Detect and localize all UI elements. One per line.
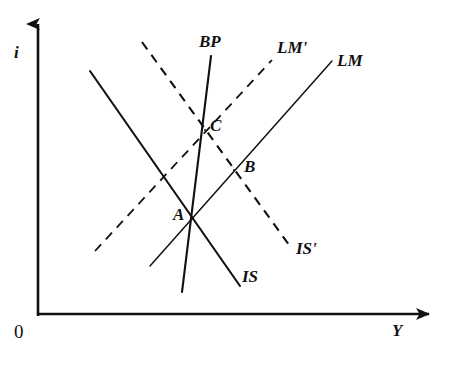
equilibrium-points-group: [191, 129, 235, 220]
curve-label-bp: BP: [199, 33, 221, 50]
curve-is: [90, 71, 240, 286]
point-label-c: C: [210, 117, 221, 134]
origin-label: 0: [14, 322, 24, 341]
point-a-marker: [191, 218, 193, 220]
curve-label-lm: LM: [337, 52, 363, 69]
curve-label-is: IS: [242, 268, 258, 285]
curve-label-is-prime: IS': [296, 240, 317, 257]
point-label-b: B: [244, 158, 255, 175]
is-lm-bp-figure: i Y 0 BP LM' LM IS IS' A B C: [0, 0, 455, 368]
diagram-canvas: [0, 0, 455, 368]
point-label-a: A: [173, 206, 184, 223]
curve-bp: [182, 56, 211, 292]
curve-label-lm-prime: LM': [277, 39, 307, 56]
point-b-marker: [233, 169, 235, 171]
x-axis-label: Y: [392, 322, 402, 339]
y-axis-label: i: [14, 44, 19, 61]
point-c-marker: [204, 129, 206, 131]
curve-is-prime: [142, 42, 292, 249]
